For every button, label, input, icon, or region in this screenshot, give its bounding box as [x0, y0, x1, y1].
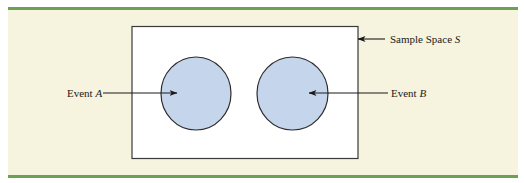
top-rule: [8, 7, 518, 10]
venn-diagram-figure: Event A Event B Sample Space S: [0, 0, 524, 183]
event-a-label: Event A: [67, 87, 102, 99]
sample-space-label: Sample Space S: [390, 33, 461, 45]
bottom-rule: [8, 175, 518, 178]
event-b-label: Event B: [391, 87, 426, 99]
